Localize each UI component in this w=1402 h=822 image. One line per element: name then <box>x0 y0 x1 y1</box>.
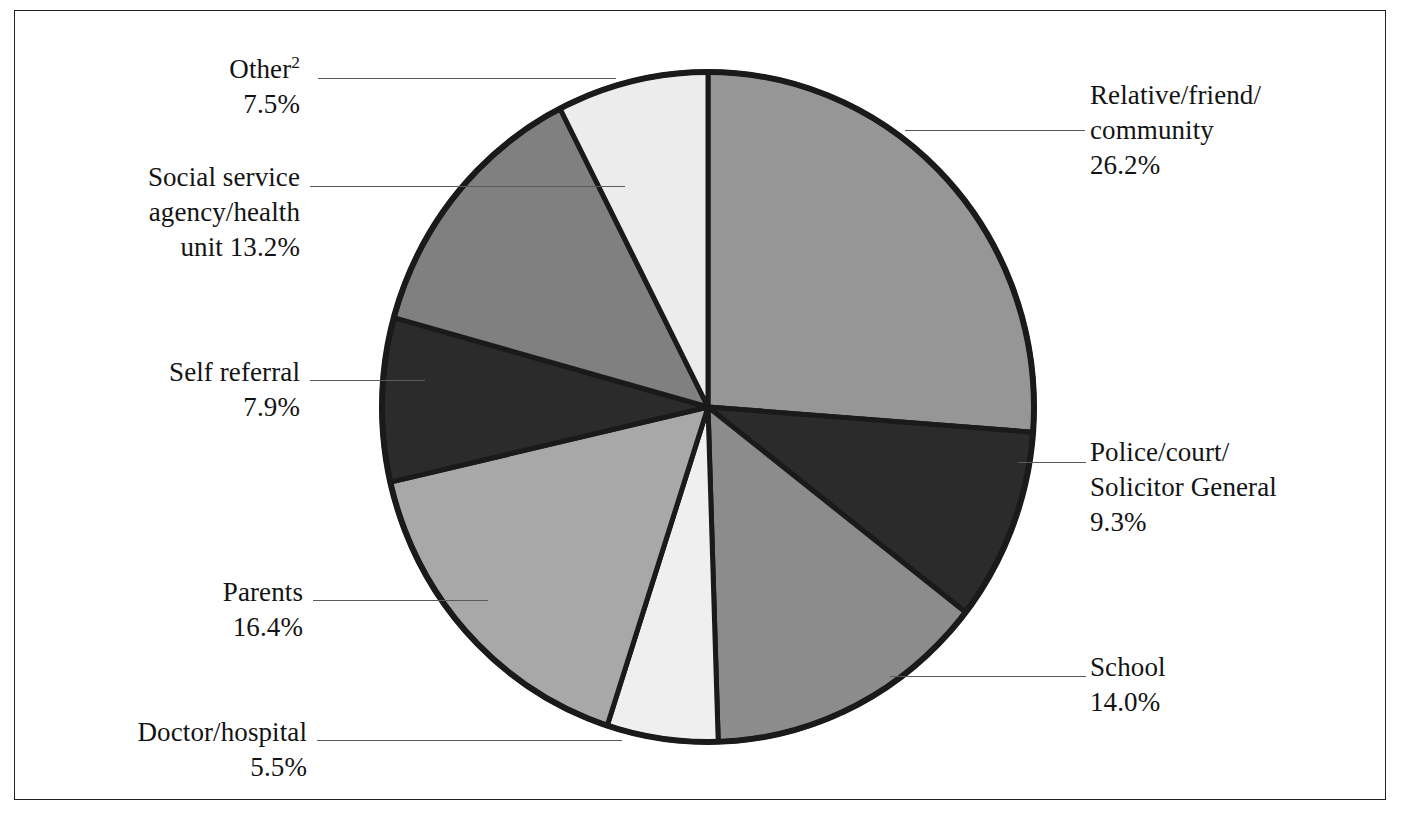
label-social-line2: agency/health <box>0 195 300 230</box>
label-police-line2: Solicitor General <box>1090 470 1277 505</box>
label-other-line1: Other2 <box>0 52 300 87</box>
leader-line-relative <box>905 130 1085 131</box>
label-social-service-agency-health-unit: Social service agency/health unit 13.2% <box>0 160 300 265</box>
label-school-percent: 14.0% <box>1090 685 1166 720</box>
label-parents-percent: 16.4% <box>0 610 303 645</box>
label-self-referral: Self referral 7.9% <box>0 355 300 425</box>
label-self-percent: 7.9% <box>0 390 300 425</box>
label-police-court-solicitor-general: Police/court/ Solicitor General 9.3% <box>1090 435 1277 540</box>
pie-chart-figure: Relative/friend/ community 26.2% Police/… <box>0 0 1402 822</box>
label-relative-line2: community <box>1090 113 1261 148</box>
label-other-percent: 7.5% <box>0 87 300 122</box>
leader-line-self <box>310 380 425 381</box>
label-police-line1: Police/court/ <box>1090 435 1277 470</box>
leader-line-other <box>318 78 616 79</box>
leader-line-school <box>890 676 1086 677</box>
leader-line-doctor <box>317 740 622 741</box>
label-self-line1: Self referral <box>0 355 300 390</box>
pie-slice-relative-friend-community[interactable] <box>708 72 1034 432</box>
label-social-line3: unit 13.2% <box>0 230 300 265</box>
label-other: Other2 7.5% <box>0 52 300 122</box>
label-relative-friend-community: Relative/friend/ community 26.2% <box>1090 78 1261 183</box>
label-parents-line1: Parents <box>0 575 303 610</box>
label-doctor-percent: 5.5% <box>0 750 307 785</box>
label-relative-percent: 26.2% <box>1090 148 1261 183</box>
label-doctor-line1: Doctor/hospital <box>0 715 307 750</box>
leader-line-parents <box>313 600 488 601</box>
leader-line-social <box>310 186 625 187</box>
pie-slice-group <box>382 72 1034 742</box>
label-police-percent: 9.3% <box>1090 505 1277 540</box>
leader-line-police <box>1018 462 1086 463</box>
label-school-line1: School <box>1090 650 1166 685</box>
label-other-text: Other <box>229 54 291 84</box>
label-school: School 14.0% <box>1090 650 1166 720</box>
label-doctor-hospital: Doctor/hospital 5.5% <box>0 715 307 785</box>
label-other-footnote-marker: 2 <box>291 53 300 72</box>
label-parents: Parents 16.4% <box>0 575 303 645</box>
label-relative-line1: Relative/friend/ <box>1090 78 1261 113</box>
label-social-line1: Social service <box>0 160 300 195</box>
